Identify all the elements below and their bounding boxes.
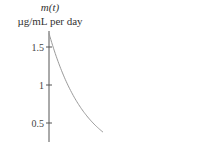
y-tick-label-1: 1 <box>39 80 44 91</box>
series-line-m <box>49 33 103 132</box>
chart: 1.510.5 <box>0 0 223 142</box>
y-tick-label-2: 0.5 <box>32 118 45 129</box>
y-tick-label-0: 1.5 <box>32 42 45 53</box>
